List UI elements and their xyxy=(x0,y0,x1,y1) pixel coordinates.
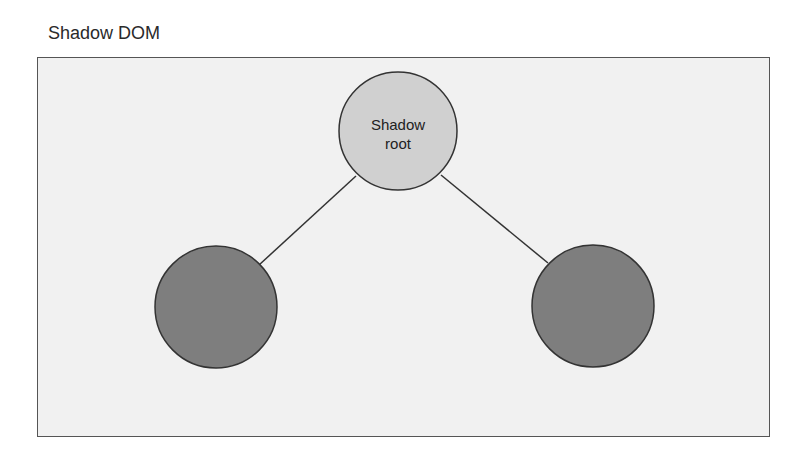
child-node-left xyxy=(155,246,277,368)
tree-diagram: Shadow root xyxy=(0,0,800,461)
child-node-right xyxy=(532,245,654,367)
shadow-root-label-line1: Shadow xyxy=(371,116,425,133)
edge-root-to-right xyxy=(441,175,548,263)
shadow-root-label-line2: root xyxy=(385,135,412,152)
shadow-root-node: Shadow root xyxy=(339,72,457,190)
edge-root-to-left xyxy=(259,176,356,265)
